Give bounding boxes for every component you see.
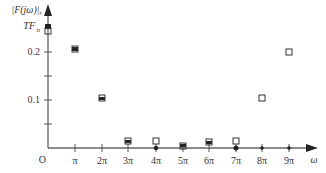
data-point (154, 146, 158, 150)
x-tick-label: 6π (204, 155, 214, 166)
x-axis-label: ω (310, 154, 317, 165)
data-point (206, 141, 212, 144)
y-tick-label: 0.1 (28, 94, 41, 105)
data-point (72, 47, 78, 51)
data-point (233, 138, 239, 144)
x-tick-label: 3π (123, 155, 133, 166)
origin-label: O (39, 154, 46, 165)
x-tick-label: 7π (231, 155, 241, 166)
x-tick-label: 2π (97, 155, 107, 166)
chart-canvas: 0.1 0.2 |F(jω)|, TF n O π 2π 3π 4π 5π 6π… (0, 0, 326, 173)
series-filled-markers (45, 24, 291, 151)
data-point (125, 140, 131, 143)
x-tick-label: π (72, 155, 77, 166)
x-tick-label: 9π (284, 155, 294, 166)
data-point (153, 138, 159, 144)
y-tick-label: 0.2 (28, 46, 41, 57)
x-tick-label: 8π (257, 155, 267, 166)
x-tick-label: 4π (151, 155, 161, 166)
x-axis: O π 2π 3π 4π 5π 6π 7π 8π 9π ω (39, 144, 318, 166)
x-tick-label: 5π (178, 155, 188, 166)
data-point (234, 146, 239, 151)
x-axis-arrow-icon (306, 144, 318, 152)
series-open-squares (45, 28, 292, 149)
y-axis-arrow-icon (44, 4, 52, 16)
data-point (259, 95, 265, 101)
data-point (286, 49, 292, 55)
data-point (287, 146, 291, 150)
y-axis-label-sub: n (37, 26, 41, 34)
data-point (99, 97, 105, 100)
data-point (260, 146, 264, 150)
data-point (180, 144, 186, 147)
y-axis-label-line2: TF (23, 20, 36, 31)
y-axis-label-line1: |F(jω)|, (11, 4, 42, 16)
